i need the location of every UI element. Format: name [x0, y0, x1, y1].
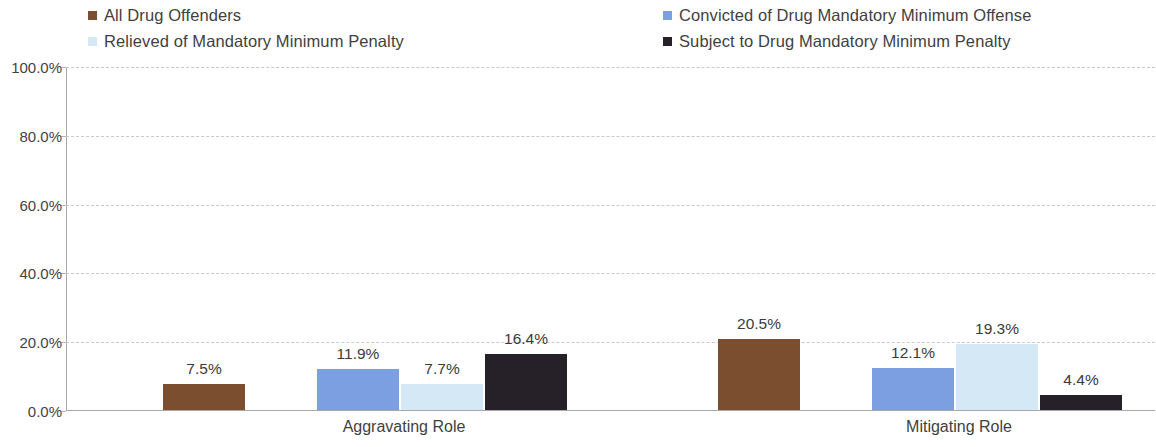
- legend-item-relieved-of-mandatory-minimum-penalty: Relieved of Mandatory Minimum Penalty: [88, 32, 404, 50]
- bar-value-label: 4.4%: [1026, 372, 1136, 388]
- x-axis-category-label: Aggravating Role: [254, 418, 554, 436]
- bar-value-label: 16.4%: [471, 331, 581, 347]
- bar: [872, 368, 954, 410]
- y-axis-tick-label: 60.0%: [0, 198, 62, 213]
- y-axis-tick-label: 0.0%: [0, 404, 62, 419]
- bar: [163, 384, 245, 410]
- legend-item-label: All Drug Offenders: [104, 6, 241, 24]
- bar: [401, 384, 483, 410]
- bar-value-label: 19.3%: [942, 321, 1052, 337]
- gridline: [66, 205, 1155, 206]
- bar: [485, 354, 567, 410]
- bar: [1040, 395, 1122, 410]
- y-axis-line: [66, 67, 67, 411]
- legend-swatch-icon: [663, 37, 672, 46]
- gridline: [66, 273, 1155, 274]
- legend-item-label: Relieved of Mandatory Minimum Penalty: [104, 32, 404, 50]
- y-axis-tick-label: 20.0%: [0, 335, 62, 350]
- bar-value-label: 12.1%: [858, 345, 968, 361]
- legend-item-subject-to-drug-mandatory-minimum-penalty: Subject to Drug Mandatory Minimum Penalt…: [663, 32, 1011, 50]
- bar-value-label: 7.5%: [149, 361, 259, 377]
- x-axis-category-label: Mitigating Role: [809, 418, 1109, 436]
- y-axis-tick-label: 40.0%: [0, 266, 62, 281]
- y-axis-tick-label: 100.0%: [0, 60, 62, 75]
- legend-item-label: Subject to Drug Mandatory Minimum Penalt…: [679, 32, 1011, 50]
- legend-swatch-icon: [663, 11, 672, 20]
- y-axis-tick-label: 80.0%: [0, 129, 62, 144]
- x-axis-line: [66, 410, 1155, 411]
- plot-area: 0.0%20.0%40.0%60.0%80.0%100.0%7.5%11.9%7…: [66, 67, 1155, 411]
- gridline: [66, 67, 1155, 68]
- legend-item-all-drug-offenders: All Drug Offenders: [88, 6, 241, 24]
- legend-item-label: Convicted of Drug Mandatory Minimum Offe…: [679, 6, 1031, 24]
- bar: [718, 339, 800, 410]
- legend-swatch-icon: [88, 11, 97, 20]
- legend-swatch-icon: [88, 37, 97, 46]
- bar-value-label: 20.5%: [704, 316, 814, 332]
- chart-legend: All Drug Offenders Relieved of Mandatory…: [0, 0, 1156, 58]
- bar-chart: All Drug Offenders Relieved of Mandatory…: [0, 0, 1156, 447]
- bar-value-label: 7.7%: [387, 361, 497, 377]
- gridline: [66, 136, 1155, 137]
- legend-item-convicted-of-drug-mandatory-minimum-offense: Convicted of Drug Mandatory Minimum Offe…: [663, 6, 1031, 24]
